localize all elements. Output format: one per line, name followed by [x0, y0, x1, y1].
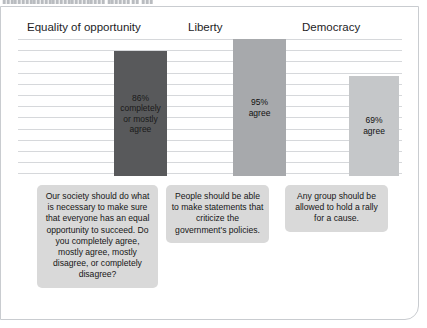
bar-series: 86%completelyor mostlyagree 95%agree 69%… — [18, 39, 402, 176]
caption-democracy: Any group should be allowed to hold a ra… — [285, 185, 388, 232]
caption-liberty: People should be able to make statements… — [166, 185, 269, 243]
caption-equality-of-opportunity: Our society should do what is necessary … — [37, 185, 158, 288]
bar-democracy: 69%agree — [349, 76, 399, 176]
bar-chart-figure: Equality of opportunity Liberty Democrac… — [1, 7, 418, 319]
bar-equality-of-opportunity: 86%completelyor mostlyagree — [114, 51, 167, 176]
chart-card: Equality of opportunity Liberty Democrac… — [0, 6, 419, 320]
bar-value-label-liberty: 95%agree — [246, 97, 274, 118]
bar-value-label-democracy: 69%agree — [360, 115, 388, 136]
question-captions: Our society should do what is necessary … — [1, 185, 418, 311]
top-clipped-text: ▮▮▮▮▮▮▮▮▮▮▮▮▮▮▮▮▮▮▮▮▮▮▮▮▮▮▮ ▮▮▮▮▮▮ ▮▮ ▮▮… — [2, 0, 152, 5]
bar-liberty: 95%agree — [233, 39, 286, 176]
column-header-liberty: Liberty — [188, 21, 223, 33]
column-header-democracy: Democracy — [302, 21, 360, 33]
bar-value-label-equality-of-opportunity: 86%completelyor mostlyagree — [117, 93, 164, 135]
column-headers: Equality of opportunity Liberty Democrac… — [1, 21, 418, 41]
column-header-equality-of-opportunity: Equality of opportunity — [27, 21, 141, 33]
